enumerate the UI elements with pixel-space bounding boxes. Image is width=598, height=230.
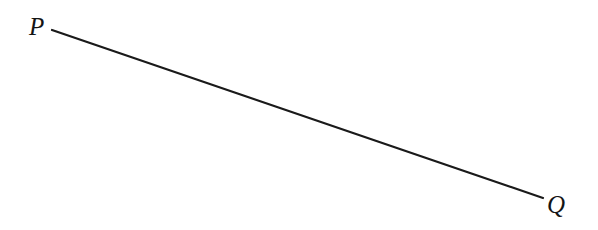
line-segment-pq [52,30,543,198]
line-segment-svg [0,0,598,230]
figure-canvas: P Q [0,0,598,230]
point-label-p: P [29,14,44,39]
point-label-q: Q [547,192,565,217]
